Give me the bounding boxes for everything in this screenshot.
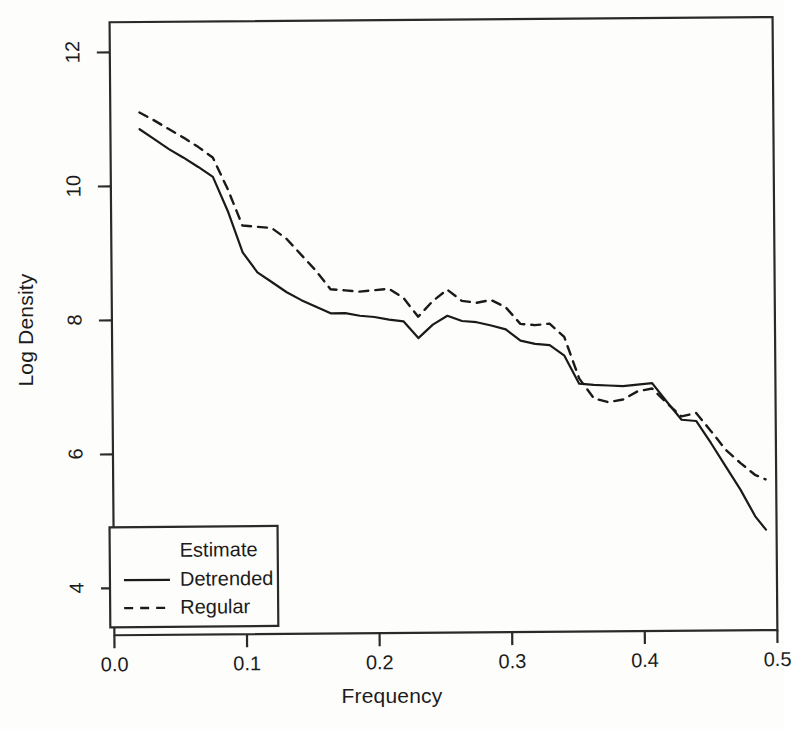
chart-plot-area [0,0,787,729]
x-tick-label: 0.5 [748,648,796,671]
y-tick-label: 6 [64,434,87,474]
x-tick-label: 0.4 [615,649,675,672]
x-tick-label: 0.3 [482,650,542,673]
y-tick-label: 12 [61,32,84,72]
x-tick-label: 0.0 [85,653,145,676]
x-tick-label: 0.2 [350,651,410,674]
data-series-layer [139,108,766,535]
legend-box [110,526,279,627]
y-tick-label: 10 [62,166,85,206]
y-axis-title: Log Density [14,260,38,400]
x-axis-title: Frequency [0,684,784,708]
legend-frame [110,526,279,627]
x-tick-label: 0.1 [217,652,277,675]
plot-stage: 4681012 0.00.10.20.30.40.5 Estimate Detr… [0,0,787,729]
y-tick-label: 4 [65,568,88,608]
y-tick-label: 8 [63,300,86,340]
series-line-regular [139,108,765,485]
series-line-detrended [140,124,766,534]
